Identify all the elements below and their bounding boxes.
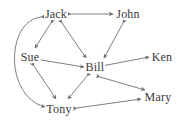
node-mary[interactable]: Mary bbox=[144, 91, 173, 103]
node-tony[interactable]: Tony bbox=[45, 103, 72, 115]
node-bill[interactable]: Bill bbox=[85, 61, 106, 73]
edge-sue-tony bbox=[34, 66, 56, 99]
node-sue[interactable]: Sue bbox=[20, 51, 41, 63]
edge-jack-bill bbox=[62, 23, 86, 58]
edge-john-bill bbox=[104, 23, 123, 58]
edge-bill-ken bbox=[107, 57, 149, 65]
edge-bill-tony bbox=[68, 76, 87, 99]
edge-jack-sue bbox=[35, 23, 51, 48]
node-jack[interactable]: Jack bbox=[44, 8, 68, 20]
edge-bill-mary bbox=[100, 77, 145, 90]
graph-figure: Jack John Sue Bill Ken Mary Tony bbox=[0, 0, 183, 124]
node-john[interactable]: John bbox=[115, 8, 140, 20]
node-ken[interactable]: Ken bbox=[151, 51, 174, 63]
edge-sue-bill bbox=[41, 60, 84, 67]
edge-tony-mary bbox=[77, 99, 141, 108]
